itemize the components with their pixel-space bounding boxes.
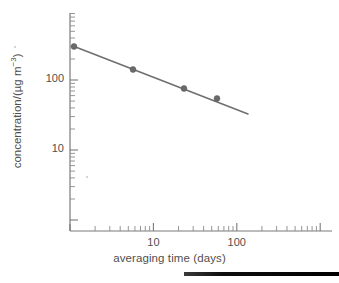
chart-plot-area: 100 10 10 100: [0, 0, 339, 283]
y-ticklabel-10: 10: [52, 142, 64, 154]
x-axis-title: averaging time (days): [0, 252, 339, 264]
figure-canvas: 100 10 10 100 averaging time (days) conc…: [0, 0, 339, 283]
data-point: [130, 67, 136, 73]
power-law-fit-line: [73, 46, 248, 114]
y-axis-title-prefix: concentration/(µg m: [11, 66, 23, 168]
data-point: [71, 44, 77, 50]
data-point: [181, 86, 187, 92]
y-ticklabel-100: 100: [46, 72, 64, 84]
scan-speck: [14, 46, 16, 48]
y-axis-title-suffix: ): [11, 53, 23, 57]
data-point: [214, 96, 220, 102]
y-axis-title-exponent: −3: [9, 57, 18, 66]
x-axis-ticks: [70, 223, 320, 231]
x-ticklabel-10: 10: [147, 236, 159, 248]
scan-edge-artifact: [184, 272, 339, 276]
x-ticklabel-100: 100: [228, 236, 246, 248]
data-point-group: [71, 44, 220, 102]
scan-speck: [86, 176, 88, 178]
y-axis-title: concentration/(µg m−3): [9, 21, 23, 201]
